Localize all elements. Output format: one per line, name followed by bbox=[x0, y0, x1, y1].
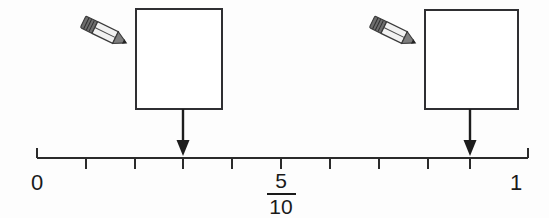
pencil-icon bbox=[369, 16, 418, 49]
pointer-arrowhead-left bbox=[177, 140, 190, 156]
fraction-numerator: 5 bbox=[275, 169, 287, 192]
fraction-denominator: 10 bbox=[269, 195, 292, 218]
number-line: 0 1 5 10 bbox=[31, 148, 528, 218]
label-midpoint-fraction: 5 10 bbox=[267, 169, 296, 218]
pointer-arrowhead-right bbox=[464, 140, 477, 156]
answer-box-right[interactable] bbox=[425, 10, 518, 109]
label-one: 1 bbox=[510, 170, 522, 195]
worksheet-canvas: 0 1 5 10 bbox=[0, 0, 549, 218]
answer-box-left[interactable] bbox=[136, 9, 222, 109]
pencil-icon bbox=[80, 16, 129, 49]
label-zero: 0 bbox=[31, 170, 43, 195]
marker-right bbox=[369, 10, 518, 156]
marker-left bbox=[80, 9, 222, 156]
tick-marks bbox=[86, 158, 470, 169]
number-line-worksheet: 0 1 5 10 bbox=[0, 0, 549, 218]
